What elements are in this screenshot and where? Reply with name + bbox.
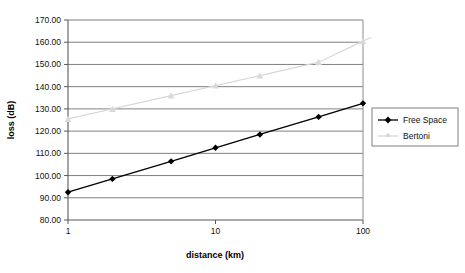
y-tick-label: 160.00	[35, 37, 61, 47]
y-tick-label: 100.00	[35, 171, 61, 181]
x-tick-label: 1	[66, 226, 71, 236]
loss-vs-distance-chart: 80.0090.00100.00110.00120.00130.00140.00…	[0, 0, 465, 273]
y-axis-title: loss (dB)	[6, 101, 16, 140]
y-tick-label: 170.00	[35, 15, 61, 25]
y-tick-label: 140.00	[35, 82, 61, 92]
y-tick-label: 120.00	[35, 126, 61, 136]
chart-container: 80.0090.00100.00110.00120.00130.00140.00…	[0, 0, 465, 273]
y-tick-label: 110.00	[36, 148, 62, 158]
y-tick-label: 90.00	[40, 193, 62, 203]
y-tick-label: 80.00	[40, 215, 62, 225]
legend: Free Space Bertoni	[372, 108, 458, 146]
y-tick-label: 150.00	[35, 59, 61, 69]
legend-label-bertoni: Bertoni	[403, 131, 430, 141]
x-tick-label: 100	[356, 226, 370, 236]
x-axis-title: distance (km)	[186, 250, 244, 260]
x-tick-label: 10	[211, 226, 221, 236]
y-tick-label: 130.00	[35, 104, 61, 114]
legend-label-free-space: Free Space	[403, 115, 447, 125]
